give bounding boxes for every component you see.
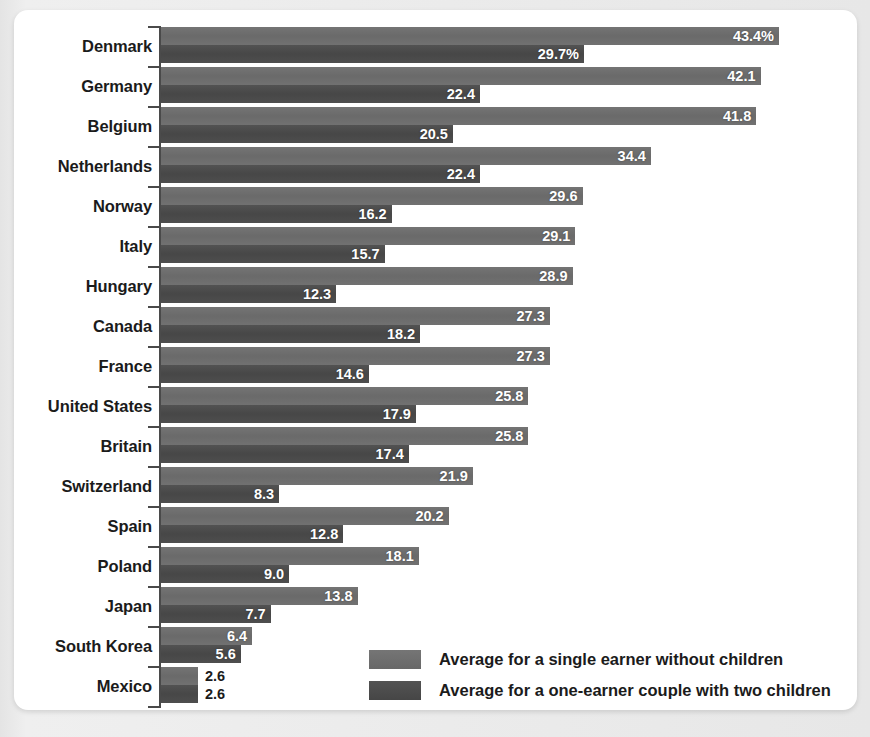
bar-s2: 7.7 (161, 605, 271, 623)
bar-group: 13.87.7 (161, 586, 857, 626)
legend-label-series1: Average for a single earner without chil… (439, 650, 783, 669)
bar-s2: 9.0 (161, 565, 289, 583)
bar-s1: 41.8 (161, 107, 756, 125)
bar-s2: 5.6 (161, 645, 241, 663)
category-label: Belgium (14, 117, 152, 136)
bar-value-label: 5.6 (216, 645, 236, 663)
legend-item-series2: Average for a one-earner couple with two… (369, 675, 839, 706)
bar-s2: 17.9 (161, 405, 416, 423)
category-label: Switzerland (14, 477, 152, 496)
bar-value-label: 41.8 (723, 107, 751, 125)
bar-s1: 42.1 (161, 67, 761, 85)
bar-group: 25.817.9 (161, 386, 857, 426)
bar-value-label: 18.2 (387, 325, 415, 343)
bar-value-label: 42.1 (727, 67, 755, 85)
chart-row: Germany42.122.4 (14, 66, 857, 106)
bar-value-label: 2.6 (205, 667, 225, 685)
category-label: Japan (14, 597, 152, 616)
bar-group: 27.314.6 (161, 346, 857, 386)
category-label: Canada (14, 317, 152, 336)
legend-swatch-series2 (369, 681, 421, 700)
legend-label-series2: Average for a one-earner couple with two… (439, 681, 831, 700)
bar-s1: 25.8 (161, 387, 528, 405)
bar-s2: 16.2 (161, 205, 392, 223)
bar-s2: 22.4 (161, 165, 480, 183)
bar-group: 18.19.0 (161, 546, 857, 586)
bar-s2: 29.7% (161, 45, 584, 63)
bar-chart: Denmark43.4%29.7%Germany42.122.4Belgium4… (14, 10, 857, 710)
bar-s1: 34.4 (161, 147, 651, 165)
legend-swatch-series1 (369, 650, 421, 669)
bar-group: 42.122.4 (161, 66, 857, 106)
bar-value-label: 29.6 (549, 187, 577, 205)
legend-item-series1: Average for a single earner without chil… (369, 644, 839, 675)
bar-s2: 22.4 (161, 85, 480, 103)
category-label: Norway (14, 197, 152, 216)
bar-s1: 21.9 (161, 467, 473, 485)
bar-group: 34.422.4 (161, 146, 857, 186)
bar-s1: 43.4% (161, 27, 779, 45)
bar-group: 28.912.3 (161, 266, 857, 306)
bar-value-label: 21.9 (440, 467, 468, 485)
bar-s2: 2.6 (161, 685, 198, 703)
bar-group: 29.115.7 (161, 226, 857, 266)
bar-group: 29.616.2 (161, 186, 857, 226)
category-label: South Korea (14, 637, 152, 656)
category-label: Denmark (14, 37, 152, 56)
bar-group: 41.820.5 (161, 106, 857, 146)
bar-s2: 18.2 (161, 325, 420, 343)
chart-row: Norway29.616.2 (14, 186, 857, 226)
category-label: Mexico (14, 677, 152, 696)
bar-value-label: 27.3 (517, 307, 545, 325)
category-label: Italy (14, 237, 152, 256)
chart-row: Denmark43.4%29.7% (14, 26, 857, 66)
chart-row: Italy29.115.7 (14, 226, 857, 266)
bar-value-label: 14.6 (336, 365, 364, 383)
bar-group: 27.318.2 (161, 306, 857, 346)
chart-card: Denmark43.4%29.7%Germany42.122.4Belgium4… (14, 10, 857, 710)
bar-value-label: 2.6 (205, 685, 225, 703)
bar-value-label: 29.1 (542, 227, 570, 245)
bar-value-label: 12.3 (303, 285, 331, 303)
bar-value-label: 29.7% (538, 45, 579, 63)
bar-s1: 20.2 (161, 507, 449, 525)
bar-value-label: 17.4 (376, 445, 404, 463)
bar-s1: 6.4 (161, 627, 252, 645)
category-label: Britain (14, 437, 152, 456)
bar-group: 21.98.3 (161, 466, 857, 506)
chart-row: Spain20.212.8 (14, 506, 857, 546)
chart-legend: Average for a single earner without chil… (369, 644, 839, 706)
bar-s2: 20.5 (161, 125, 453, 143)
bar-value-label: 12.8 (310, 525, 338, 543)
chart-row: Poland18.19.0 (14, 546, 857, 586)
bar-value-label: 13.8 (324, 587, 352, 605)
chart-row: Switzerland21.98.3 (14, 466, 857, 506)
chart-row: Britain25.817.4 (14, 426, 857, 466)
bar-s1: 28.9 (161, 267, 573, 285)
bar-s2: 14.6 (161, 365, 369, 383)
axis-tick (148, 706, 161, 708)
bar-value-label: 16.2 (358, 205, 386, 223)
bar-s1: 13.8 (161, 587, 358, 605)
chart-row: Netherlands34.422.4 (14, 146, 857, 186)
bar-s2: 8.3 (161, 485, 279, 503)
category-label: Spain (14, 517, 152, 536)
bar-group: 43.4%29.7% (161, 26, 857, 66)
bar-s1: 27.3 (161, 307, 550, 325)
bar-value-label: 18.1 (386, 547, 414, 565)
bar-s2: 15.7 (161, 245, 385, 263)
bar-value-label: 17.9 (383, 405, 411, 423)
bar-value-label: 7.7 (245, 605, 265, 623)
bar-group: 25.817.4 (161, 426, 857, 466)
bar-value-label: 22.4 (447, 85, 475, 103)
bar-value-label: 34.4 (618, 147, 646, 165)
bar-s1: 2.6 (161, 667, 198, 685)
bar-value-label: 22.4 (447, 165, 475, 183)
bar-value-label: 15.7 (351, 245, 379, 263)
category-label: Hungary (14, 277, 152, 296)
bar-value-label: 27.3 (517, 347, 545, 365)
bar-value-label: 20.2 (415, 507, 443, 525)
chart-row: France27.314.6 (14, 346, 857, 386)
bar-value-label: 43.4% (733, 27, 774, 45)
bar-s1: 27.3 (161, 347, 550, 365)
